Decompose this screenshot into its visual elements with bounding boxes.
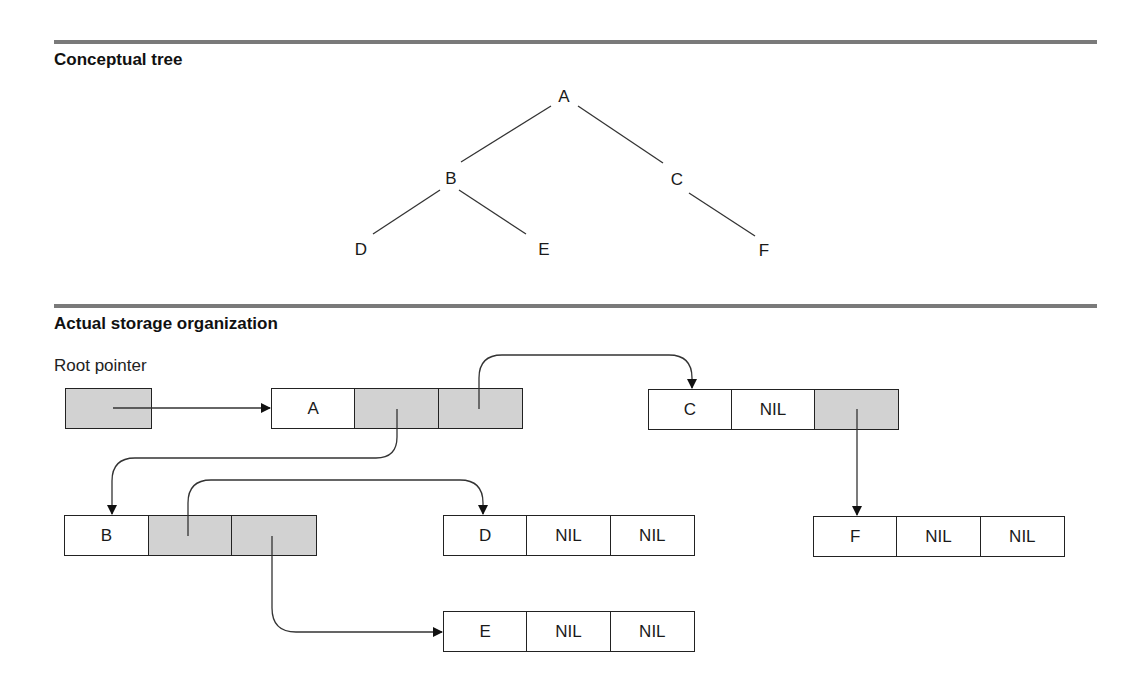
middle-rule: [54, 304, 1097, 308]
node-e-value: E: [444, 612, 527, 651]
node-a-left-pointer: [355, 389, 438, 428]
storage-node-c: C NIL: [648, 389, 899, 430]
node-c-right-pointer: [815, 390, 898, 429]
tree-node-a: A: [558, 88, 569, 105]
root-pointer-label: Root pointer: [54, 356, 147, 376]
tree-node-c: C: [671, 171, 683, 188]
storage-node-f: F NIL NIL: [813, 516, 1065, 557]
top-rule: [54, 40, 1097, 44]
node-b-value: B: [65, 516, 149, 555]
storage-node-e: E NIL NIL: [443, 611, 695, 652]
tree-node-f: F: [759, 242, 769, 259]
root-pointer-cell: [65, 388, 152, 429]
node-c-value: C: [649, 390, 732, 429]
storage-node-b: B: [64, 515, 317, 556]
node-e-left-pointer: NIL: [527, 612, 610, 651]
node-d-right-pointer: NIL: [611, 516, 694, 555]
node-b-right-pointer: [232, 516, 316, 555]
node-f-right-pointer: NIL: [981, 517, 1064, 556]
node-a-value: A: [272, 389, 355, 428]
node-b-left-pointer: [149, 516, 233, 555]
tree-edges: [0, 0, 1140, 684]
storage-node-a: A: [271, 388, 523, 429]
node-f-left-pointer: NIL: [897, 517, 980, 556]
tree-node-e: E: [538, 241, 549, 258]
storage-node-d: D NIL NIL: [443, 515, 695, 556]
node-e-right-pointer: NIL: [611, 612, 694, 651]
node-a-right-pointer: [439, 389, 522, 428]
tree-node-b: B: [445, 170, 456, 187]
node-c-left-pointer: NIL: [732, 390, 815, 429]
conceptual-tree-title: Conceptual tree: [54, 50, 182, 70]
tree-node-d: D: [355, 241, 367, 258]
pointer-arrows: [0, 0, 1140, 684]
storage-organization-title: Actual storage organization: [54, 314, 278, 334]
node-d-value: D: [444, 516, 527, 555]
node-f-value: F: [814, 517, 897, 556]
node-d-left-pointer: NIL: [527, 516, 610, 555]
